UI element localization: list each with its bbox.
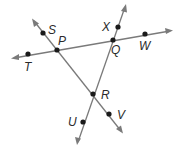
point-U <box>80 119 85 124</box>
arrowhead-up-icon <box>121 4 127 13</box>
point-Q <box>110 37 115 42</box>
label-R: R <box>101 88 110 102</box>
label-W: W <box>139 39 152 53</box>
label-S: S <box>48 23 56 37</box>
point-W <box>142 31 147 36</box>
geometry-diagram: S P T X Q W R V U <box>0 0 182 149</box>
point-S <box>40 30 45 35</box>
arrowhead-left-icon <box>11 54 19 60</box>
label-P: P <box>58 34 66 48</box>
point-T <box>25 51 30 56</box>
label-Q: Q <box>111 43 120 57</box>
label-U: U <box>68 115 77 129</box>
label-V: V <box>117 108 126 122</box>
point-X <box>115 24 120 29</box>
point-P <box>54 47 59 52</box>
point-V <box>106 111 111 116</box>
label-T: T <box>24 60 33 74</box>
label-X: X <box>101 20 111 34</box>
arrowhead-right-icon <box>165 28 173 34</box>
arrowhead-down-icon <box>75 137 81 145</box>
point-R <box>90 91 95 96</box>
